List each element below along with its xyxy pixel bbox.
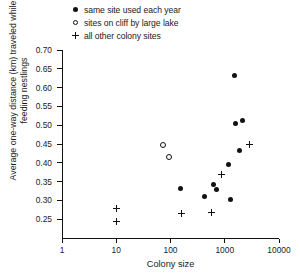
data-point	[237, 148, 242, 153]
y-tick-label: 0.55	[26, 101, 52, 111]
data-point	[178, 210, 185, 217]
x-axis-title: Colony size	[62, 259, 279, 269]
y-tick-label: 0.70	[26, 45, 52, 55]
x-tick-label: 1	[42, 245, 82, 255]
data-point	[166, 154, 172, 160]
y-tick-mark	[57, 68, 62, 69]
y-tick-mark	[57, 219, 62, 220]
legend-item-same-site: same site used each year	[66, 3, 181, 16]
legend-item-cliff-lake: sites on cliff by large lake	[66, 16, 181, 29]
y-tick-label: 0.60	[26, 83, 52, 93]
data-point	[214, 187, 219, 192]
plus-icon	[66, 32, 84, 39]
x-tick-mark	[279, 239, 280, 243]
x-tick-mark	[170, 239, 171, 243]
y-tick-mark	[57, 181, 62, 182]
data-point	[208, 209, 215, 216]
data-point	[218, 171, 225, 178]
x-tick-label: 10000	[259, 245, 299, 255]
x-tick-mark	[62, 239, 63, 243]
data-point	[232, 73, 237, 78]
y-tick-label: 0.35	[26, 177, 52, 187]
y-tick-mark	[57, 125, 62, 126]
y-tick-mark	[57, 144, 62, 145]
data-point	[246, 141, 253, 148]
data-point	[113, 205, 120, 212]
chart-legend: same site used each year sites on cliff …	[66, 3, 181, 42]
y-tick-mark	[57, 200, 62, 201]
data-point	[240, 118, 245, 123]
data-point	[160, 142, 166, 148]
data-point	[211, 182, 216, 187]
legend-item-label: same site used each year	[84, 5, 181, 15]
x-tick-mark	[224, 239, 225, 243]
x-tick-label: 100	[151, 245, 191, 255]
y-axis-line	[62, 50, 63, 239]
y-tick-mark	[57, 162, 62, 163]
legend-item-label: sites on cliff by large lake	[84, 18, 178, 28]
y-tick-label: 0.50	[26, 120, 52, 130]
y-tick-mark	[57, 106, 62, 107]
y-tick-label: 0.30	[26, 195, 52, 205]
x-tick-label: 10	[96, 245, 136, 255]
x-tick-label: 1000	[205, 245, 245, 255]
data-point	[233, 121, 238, 126]
data-point	[113, 218, 120, 225]
open-circle-icon	[66, 20, 84, 25]
y-tick-label: 0.25	[26, 214, 52, 224]
y-tick-label: 0.45	[26, 139, 52, 149]
legend-item-label: all other colony sites	[84, 31, 161, 41]
y-tick-mark	[57, 50, 62, 51]
chart-figure: same site used each year sites on cliff …	[0, 0, 300, 277]
y-axis-title: Average one-way distance (km) traveled w…	[8, 0, 29, 191]
legend-item-other-sites: all other colony sites	[66, 29, 181, 42]
data-point	[226, 162, 231, 167]
x-tick-mark	[116, 239, 117, 243]
data-point	[228, 197, 233, 202]
y-tick-mark	[57, 87, 62, 88]
data-point	[202, 194, 207, 199]
data-point	[178, 186, 183, 191]
y-tick-label: 0.40	[26, 158, 52, 168]
filled-circle-icon	[66, 7, 84, 12]
y-tick-label: 0.65	[26, 64, 52, 74]
